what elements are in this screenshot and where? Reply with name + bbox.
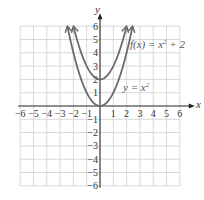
x-axis-arrow-icon [189, 104, 195, 109]
y-tick-label: 1 [93, 87, 98, 98]
coordinate-plane: −6−5−4−3−2−1123456654321−1−2−3−4−5−6 x y… [0, 0, 204, 200]
x-tick-label: 1 [111, 108, 116, 119]
x-tick-label: 3 [137, 108, 142, 119]
x-tick-label: −4 [41, 108, 52, 119]
y-tick-label: 3 [93, 61, 98, 72]
y-tick-label: −6 [87, 180, 98, 191]
x-tick-label: −2 [68, 108, 79, 119]
x-tick-label: 4 [151, 108, 156, 119]
y-tick-label: −5 [87, 167, 98, 178]
y-tick-label: −2 [87, 127, 98, 138]
label-y-x-squared: y = x2 [122, 81, 150, 93]
y-tick-label: 6 [93, 21, 98, 32]
x-tick-label: 5 [164, 108, 169, 119]
x-tick-label: 6 [177, 108, 182, 119]
y-axis-label: y [94, 3, 100, 15]
x-tick-label: −6 [15, 108, 26, 119]
x-tick-label: −5 [28, 108, 39, 119]
x-tick-label: −3 [55, 108, 66, 119]
y-tick-label: −4 [87, 154, 98, 165]
label-f-x-squared-plus-2: f(x) = x2 + 2 [130, 38, 186, 51]
y-tick-label: 5 [93, 34, 98, 45]
y-tick-label: −3 [87, 140, 98, 151]
x-tick-label: 2 [124, 108, 129, 119]
y-tick-label: 4 [93, 47, 98, 58]
y-tick-label: −1 [87, 114, 98, 125]
x-axis-label: x [195, 98, 201, 110]
